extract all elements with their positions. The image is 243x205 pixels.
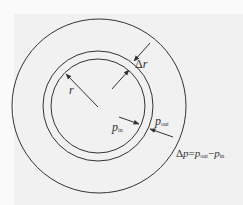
r-symbol: r bbox=[143, 57, 148, 71]
shell-inner-circle bbox=[51, 59, 145, 153]
delta-r-inner-arrow bbox=[112, 70, 129, 89]
radius-label: r bbox=[69, 84, 74, 96]
outer-circle bbox=[12, 19, 186, 193]
p-in-label: pin bbox=[112, 121, 123, 133]
p-out-arrow bbox=[150, 129, 173, 137]
shell-diagram-svg bbox=[0, 0, 243, 205]
diagram-canvas: r Δr pin pout Δp=pout−pin bbox=[0, 0, 243, 205]
eq-p-in-sub: in bbox=[220, 153, 225, 159]
p-out-subscript: out bbox=[161, 121, 169, 127]
delta-symbol: Δ bbox=[135, 57, 143, 71]
eq-p-out-sub: out bbox=[200, 153, 208, 159]
pressure-difference-equation: Δp=pout−pin bbox=[176, 148, 224, 159]
p-in-subscript: in bbox=[118, 127, 123, 133]
p-out-label: pout bbox=[155, 115, 169, 127]
delta-r-label: Δr bbox=[135, 58, 147, 70]
